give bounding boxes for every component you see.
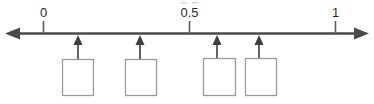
axis-left-arrow-icon xyxy=(5,28,20,40)
pointer-group-4 xyxy=(255,35,264,58)
answer-box-2[interactable] xyxy=(126,60,157,96)
tick-group-1: 0.5 xyxy=(180,5,198,34)
answer-box-3[interactable] xyxy=(204,59,236,96)
number-line-diagram: 0 0.5 1 xyxy=(0,0,374,104)
tick-group-0: 0 xyxy=(40,5,47,34)
answer-box-1[interactable] xyxy=(63,60,94,96)
pointer-arrow-up-icon-3 xyxy=(213,35,222,45)
axis-right-arrow-icon xyxy=(354,28,369,40)
answer-box-rect-4[interactable] xyxy=(246,59,277,96)
answer-box-4[interactable] xyxy=(246,59,277,96)
pointer-group-3 xyxy=(213,35,222,58)
tick-group-2: 1 xyxy=(332,5,339,34)
pointer-arrow-up-icon-1 xyxy=(74,35,83,45)
answer-box-rect-2[interactable] xyxy=(126,60,157,96)
answer-box-rect-3[interactable] xyxy=(204,59,236,96)
number-line-canvas: 0 0.5 1 xyxy=(0,0,374,104)
pointer-group-1 xyxy=(74,35,83,59)
tick-label-0point5: 0.5 xyxy=(180,5,198,20)
answer-box-rect-1[interactable] xyxy=(63,60,94,96)
top-edge-artifact xyxy=(181,2,187,4)
pointer-arrow-up-icon-2 xyxy=(136,35,145,45)
tick-label-1: 1 xyxy=(332,5,339,20)
tick-label-0: 0 xyxy=(40,5,47,20)
top-edge-artifact-2 xyxy=(192,2,198,4)
pointer-arrow-up-icon-4 xyxy=(255,35,264,45)
pointer-group-2 xyxy=(136,35,145,59)
